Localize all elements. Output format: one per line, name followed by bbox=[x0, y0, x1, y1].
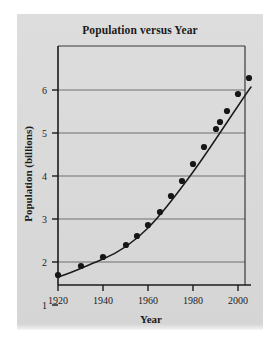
chapter-header-ghost: CHAPTER 1 Functions and Models bbox=[38, 0, 148, 1]
x-axis bbox=[58, 285, 251, 291]
data-point bbox=[78, 263, 84, 269]
data-point bbox=[100, 254, 106, 260]
x-tick-labels: 1920 1940 1960 1980 2000 bbox=[48, 295, 248, 306]
data-point bbox=[55, 272, 61, 278]
data-point bbox=[213, 126, 219, 132]
x-tick-label-1980: 1980 bbox=[183, 295, 203, 306]
y-tick-label-2: 2 bbox=[42, 257, 47, 268]
plot-frame bbox=[58, 46, 245, 285]
x-axis-title: Year bbox=[140, 313, 162, 325]
fitted-curve bbox=[58, 87, 251, 277]
data-point bbox=[179, 178, 185, 184]
x-tick-label-2000: 2000 bbox=[228, 295, 248, 306]
data-point bbox=[134, 233, 140, 239]
y-tick-label-6: 6 bbox=[42, 85, 47, 96]
data-point bbox=[123, 242, 129, 248]
population-versus-year-chart: 6 5 4 3 2 1 1920 1940 1960 1980 2000 Yea… bbox=[17, 14, 263, 330]
data-point bbox=[190, 161, 196, 167]
x-tick-label-1940: 1940 bbox=[93, 295, 113, 306]
data-point bbox=[224, 108, 230, 114]
data-point bbox=[246, 75, 252, 81]
data-point bbox=[201, 144, 207, 150]
y-axis bbox=[52, 46, 58, 305]
data-point bbox=[235, 91, 241, 97]
y-tick-label-1: 1 bbox=[42, 300, 47, 311]
y-tick-label-5: 5 bbox=[42, 128, 47, 139]
page-header-cutoff: 14 CHAPTER 1 Functions and Models bbox=[0, 0, 280, 12]
data-point bbox=[157, 209, 163, 215]
gridlines bbox=[58, 90, 245, 262]
y-tick-label-3: 3 bbox=[42, 214, 47, 225]
figure-panel: Population versus Year 6 5 4 3 bbox=[17, 14, 263, 330]
page-number-ghost: 14 bbox=[4, 0, 12, 1]
data-point bbox=[168, 193, 174, 199]
x-tick-label-1920: 1920 bbox=[48, 295, 68, 306]
data-point bbox=[145, 222, 151, 228]
y-tick-labels: 6 5 4 3 2 1 bbox=[42, 85, 47, 311]
data-point bbox=[217, 119, 223, 125]
x-tick-label-1960: 1960 bbox=[138, 295, 158, 306]
y-tick-label-4: 4 bbox=[42, 171, 47, 182]
y-axis-title: Population (billions) bbox=[22, 126, 35, 222]
